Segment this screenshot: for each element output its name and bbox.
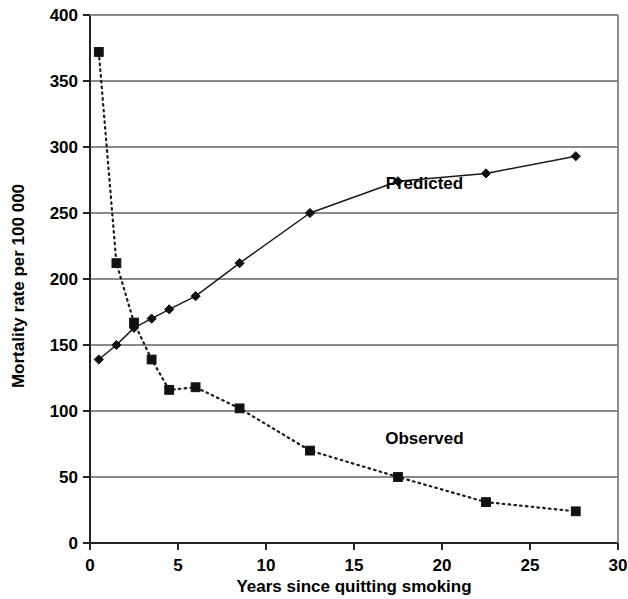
y-tick-label-400: 400	[50, 6, 78, 25]
data-point-predicted-4	[165, 305, 174, 314]
x-tick-label-30: 30	[609, 556, 628, 575]
series-annotation-labels: PredictedObserved	[385, 174, 463, 448]
series-line-observed	[99, 52, 576, 511]
y-axis-tick-labels: 050100150200250300350400	[50, 6, 78, 553]
data-point-observed-4	[165, 385, 174, 394]
y-tick-label-150: 150	[50, 336, 78, 355]
series-lines-group	[99, 52, 576, 511]
x-tick-label-10: 10	[257, 556, 276, 575]
data-point-observed-3	[147, 355, 156, 364]
x-tick-label-0: 0	[85, 556, 94, 575]
data-point-observed-7	[306, 446, 315, 455]
series-line-predicted	[99, 156, 576, 359]
y-tick-label-0: 0	[69, 534, 78, 553]
data-point-predicted-9	[481, 169, 490, 178]
data-point-observed-0	[94, 48, 103, 57]
mortality-rate-line-chart: 051015202530 050100150200250300350400 Pr…	[0, 0, 628, 599]
data-point-predicted-7	[305, 208, 314, 217]
x-tick-label-5: 5	[173, 556, 182, 575]
data-point-observed-2	[130, 318, 139, 327]
y-tick-label-350: 350	[50, 72, 78, 91]
y-tick-label-250: 250	[50, 204, 78, 223]
data-point-predicted-10	[571, 152, 580, 161]
x-tick-label-15: 15	[345, 556, 364, 575]
series-label-observed: Observed	[385, 429, 463, 448]
x-tick-label-20: 20	[433, 556, 452, 575]
x-tick-label-25: 25	[521, 556, 540, 575]
chart-figure: 051015202530 050100150200250300350400 Pr…	[0, 0, 628, 599]
data-point-observed-6	[235, 404, 244, 413]
x-axis-tick-labels: 051015202530	[85, 556, 627, 575]
data-point-observed-1	[112, 259, 121, 268]
y-tick-label-100: 100	[50, 402, 78, 421]
gridlines-group	[90, 15, 618, 477]
data-point-observed-5	[191, 383, 200, 392]
y-tick-label-50: 50	[59, 468, 78, 487]
data-point-observed-8	[394, 473, 403, 482]
tick-marks-group	[83, 15, 618, 550]
data-point-observed-9	[482, 498, 491, 507]
x-axis-title: Years since quitting smoking	[236, 577, 471, 596]
y-tick-label-200: 200	[50, 270, 78, 289]
series-label-predicted: Predicted	[386, 174, 463, 193]
y-axis-title: Mortality rate per 100 000	[9, 184, 28, 388]
data-point-predicted-3	[147, 314, 156, 323]
data-point-observed-10	[571, 507, 580, 516]
y-tick-label-300: 300	[50, 138, 78, 157]
series-markers-group	[94, 48, 580, 516]
